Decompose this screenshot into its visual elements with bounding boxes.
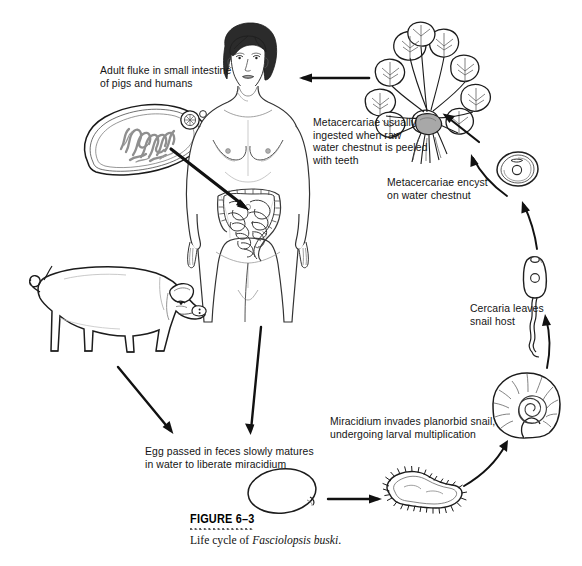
label-layer: Adult fluke in small intestine of pigs a… xyxy=(0,0,582,566)
label-adult-fluke: Adult fluke in small intestine of pigs a… xyxy=(100,65,231,90)
label-cercaria-leaves-snail-host: Cercaria leaves snail host xyxy=(470,303,544,328)
label-metacercariae-encyst: Metacercariae encyst on water chestnut xyxy=(387,177,488,202)
label-metacercariae-ingested: Metacercariae usually ingested when raw … xyxy=(313,117,428,167)
caption-dotted-rule xyxy=(190,528,254,531)
figure-caption-text: Life cycle of Fasciolopsis buski. xyxy=(190,534,450,548)
figure-number: FIGURE 6–3 xyxy=(190,512,419,526)
caption-suffix: . xyxy=(338,534,341,547)
caption-prefix: Life cycle of xyxy=(190,534,252,547)
label-egg-passed-in-feces: Egg passed in feces slowly matures in wa… xyxy=(145,446,314,471)
caption-species-name: Fasciolopsis buski xyxy=(252,534,338,547)
figure-life-cycle-fasciolopsis-buski: Adult fluke in small intestine of pigs a… xyxy=(0,0,582,566)
label-miracidium-invades-snail: Miracidium invades planorbid snail, unde… xyxy=(330,416,495,441)
figure-caption-block: FIGURE 6–3 Life cycle of Fasciolopsis bu… xyxy=(190,512,450,548)
